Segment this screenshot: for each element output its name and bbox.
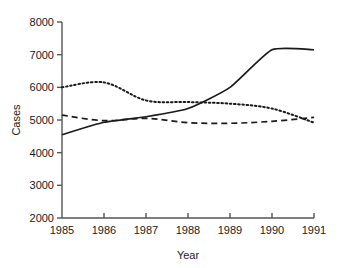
x-tick-label: 1985	[50, 224, 74, 236]
y-tick-label: 7000	[30, 49, 54, 61]
chart-container: 2000300040005000600070008000 19851986198…	[0, 0, 340, 268]
series-line-dotted-series	[62, 82, 314, 123]
y-axis-title: Cases	[10, 104, 22, 136]
y-tick-label: 4000	[30, 147, 54, 159]
y-tick-label: 6000	[30, 81, 54, 93]
line-chart: 2000300040005000600070008000 19851986198…	[0, 0, 340, 268]
y-tick-labels: 2000300040005000600070008000	[30, 16, 54, 224]
x-tick-label: 1989	[218, 224, 242, 236]
x-tick-label: 1990	[260, 224, 284, 236]
x-tick-marks	[104, 213, 314, 218]
y-tick-label: 2000	[30, 212, 54, 224]
data-series-group	[62, 48, 314, 134]
x-tick-label: 1988	[176, 224, 200, 236]
x-axis-title: Year	[177, 249, 200, 261]
y-tick-label: 5000	[30, 114, 54, 126]
x-tick-label: 1986	[92, 224, 116, 236]
y-tick-marks	[57, 22, 62, 218]
y-tick-label: 8000	[30, 16, 54, 28]
x-tick-labels: 1985198619871988198919901991	[50, 224, 326, 236]
y-tick-label: 3000	[30, 179, 54, 191]
x-tick-label: 1991	[302, 224, 326, 236]
x-tick-label: 1987	[134, 224, 158, 236]
series-line-dashed-series	[62, 115, 314, 123]
